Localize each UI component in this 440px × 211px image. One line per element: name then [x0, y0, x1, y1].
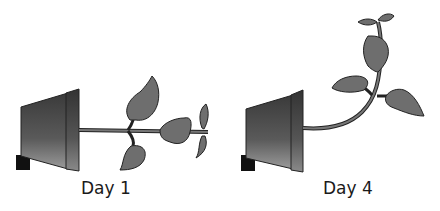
leaf — [332, 76, 368, 92]
day1-label: Day 1 — [81, 178, 131, 198]
leaf — [127, 76, 159, 120]
day4-label: Day 4 — [323, 178, 373, 198]
day4-plant — [241, 14, 424, 172]
leaf — [378, 14, 394, 21]
leaf — [385, 89, 424, 116]
pot-rim — [291, 90, 303, 172]
leaf — [364, 36, 389, 72]
phototropism-diagram — [0, 0, 440, 211]
leaf — [160, 118, 191, 144]
leaf — [358, 19, 377, 25]
leaf — [196, 136, 206, 158]
leaf — [120, 146, 145, 170]
leaf — [200, 104, 208, 129]
flower-pot — [21, 93, 68, 169]
pot-rim — [66, 89, 79, 171]
day1-plant — [16, 76, 208, 171]
flower-pot — [246, 95, 293, 169]
